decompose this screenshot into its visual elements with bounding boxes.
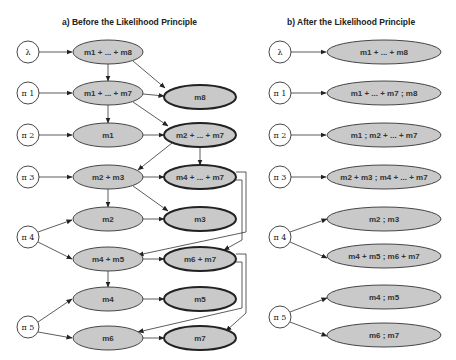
node-m2-m7: m2 + ... + m7	[164, 123, 236, 147]
svg-text:m5: m5	[194, 295, 206, 304]
svg-text:m6: m6	[102, 334, 114, 343]
node-b-6: m4 ; m5	[327, 285, 441, 309]
prior-pi4: π 4	[269, 226, 291, 248]
svg-text:π 2: π 2	[22, 131, 35, 140]
panel-b-title: b) After the Likelihood Principle	[287, 17, 415, 27]
prior-pi5: π 5	[269, 306, 291, 328]
svg-text:m1: m1	[102, 131, 114, 140]
svg-text:m6 + m7: m6 + m7	[184, 255, 217, 264]
node-m3: m3	[164, 207, 236, 231]
node-b-4: m2 ; m3	[327, 207, 441, 231]
svg-text:m2 + m3 ; m4 + ... + m7: m2 + m3 ; m4 + ... + m7	[340, 173, 428, 182]
svg-text:m4: m4	[102, 295, 114, 304]
panel-a-right-nodes: m8 m2 + ... + m7 m4 + ... + m7 m3 m6 + m…	[164, 85, 236, 350]
prior-lambda: λ	[17, 41, 39, 63]
svg-text:π 4: π 4	[22, 233, 35, 242]
node-m7: m7	[164, 326, 236, 350]
node-m2-m3: m2 + m3	[73, 165, 143, 189]
svg-text:π 1: π 1	[274, 89, 287, 98]
node-m4-m5: m4 + m5	[73, 247, 143, 271]
node-m2: m2	[73, 207, 143, 231]
svg-text:m4 + ... + m7: m4 + ... + m7	[176, 173, 225, 182]
node-b-0: m1 + ... + m8	[327, 40, 441, 64]
prior-pi4: π 4	[17, 226, 39, 248]
panel-b: b) After the Likelihood Principle λ π 1	[269, 17, 441, 347]
svg-text:m3: m3	[194, 215, 206, 224]
node-b-2: m1 ; m2 + ... + m7	[327, 123, 441, 147]
prior-pi3: π 3	[269, 166, 291, 188]
svg-text:m4 ; m5: m4 ; m5	[369, 293, 400, 302]
prior-pi2: π 2	[269, 124, 291, 146]
likelihood-principle-diagram: a) Before the Likelihood Principle	[0, 0, 456, 360]
svg-text:π 5: π 5	[274, 313, 287, 322]
prior-pi1: π 1	[269, 82, 291, 104]
node-b-1: m1 + ... + m7 ; m8	[327, 81, 441, 105]
node-m6: m6	[73, 326, 143, 350]
svg-text:m1 + ... + m7: m1 + ... + m7	[84, 89, 133, 98]
svg-text:m2 ; m3: m2 ; m3	[369, 215, 400, 224]
svg-text:π 1: π 1	[22, 89, 35, 98]
svg-text:π 4: π 4	[274, 233, 287, 242]
svg-text:π 3: π 3	[22, 173, 35, 182]
prior-pi1: π 1	[17, 82, 39, 104]
node-m1-m8: m1 + ... + m8	[73, 40, 143, 64]
prior-pi2: π 2	[17, 124, 39, 146]
panel-a: a) Before the Likelihood Principle	[17, 17, 246, 350]
panel-a-priors: λ π 1 π 2 π 3 π 4 π 5	[17, 41, 39, 338]
svg-text:m1 ; m2 + ... + m7: m1 ; m2 + ... + m7	[351, 131, 418, 140]
node-m1: m1	[73, 123, 143, 147]
svg-text:m7: m7	[194, 334, 206, 343]
svg-text:m2 + m3: m2 + m3	[92, 173, 125, 182]
svg-text:m4 + m5: m4 + m5	[92, 255, 125, 264]
svg-text:m6 ; m7: m6 ; m7	[369, 331, 400, 340]
svg-text:m2 + ... + m7: m2 + ... + m7	[176, 131, 225, 140]
svg-text:m1 + ... + m8: m1 + ... + m8	[84, 48, 133, 57]
svg-text:m8: m8	[194, 93, 206, 102]
node-m8: m8	[164, 85, 236, 109]
node-b-3: m2 + m3 ; m4 + ... + m7	[327, 165, 441, 189]
svg-text:m2: m2	[102, 215, 114, 224]
svg-text:π 3: π 3	[274, 173, 287, 182]
prior-pi3: π 3	[17, 166, 39, 188]
svg-text:λ: λ	[277, 48, 282, 57]
prior-pi5: π 5	[17, 316, 39, 338]
svg-text:m1 + ... + m7 ; m8: m1 + ... + m7 ; m8	[351, 89, 418, 98]
node-m4-m7: m4 + ... + m7	[164, 165, 236, 189]
node-b-5: m4 + m5 ; m6 + m7	[327, 244, 441, 268]
node-m1-m7: m1 + ... + m7	[73, 81, 143, 105]
node-m6-m7: m6 + m7	[164, 247, 236, 271]
svg-text:m4 + m5 ; m6 + m7: m4 + m5 ; m6 + m7	[348, 252, 420, 261]
svg-text:λ: λ	[25, 48, 30, 57]
panel-b-nodes: m1 + ... + m8 m1 + ... + m7 ; m8 m1 ; m2…	[327, 40, 441, 347]
svg-text:π 5: π 5	[22, 323, 35, 332]
panel-b-priors: λ π 1 π 2 π 3 π 4 π 5	[269, 41, 291, 328]
node-m5: m5	[164, 287, 236, 311]
panel-a-title: a) Before the Likelihood Principle	[62, 17, 197, 27]
svg-text:π 2: π 2	[274, 131, 287, 140]
node-b-7: m6 ; m7	[327, 323, 441, 347]
panel-b-edges	[290, 52, 327, 336]
svg-text:m1 + ... + m8: m1 + ... + m8	[360, 48, 409, 57]
node-m4: m4	[73, 287, 143, 311]
prior-lambda: λ	[269, 41, 291, 63]
